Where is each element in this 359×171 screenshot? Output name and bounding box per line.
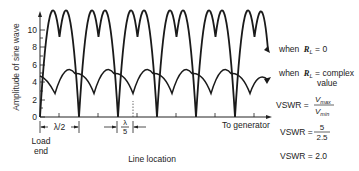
vswr-formula: VSWR = Vmax Vmin: [276, 95, 334, 117]
svg-text:VSWR =: VSWR =: [276, 100, 309, 110]
svg-text:2: 2: [32, 95, 37, 105]
y-axis-arrow-icon: [38, 11, 42, 17]
svg-text:10: 10: [28, 25, 38, 35]
series-rl-zero: [40, 10, 268, 117]
y-axis-label: Amplitude of sine wave: [11, 23, 21, 110]
dim-arrow-left-icon: [40, 126, 45, 129]
svg-text:2.5: 2.5: [316, 133, 328, 142]
to-generator-label: To generator: [222, 120, 270, 130]
svg-text:8: 8: [32, 42, 37, 52]
end-label: end: [34, 146, 48, 156]
y-tick-labels: 0 2 4 6 8 10: [28, 25, 38, 122]
svg-text:VSWR =: VSWR =: [280, 127, 313, 137]
x-axis-arrow-icon: [266, 115, 272, 119]
half-wavelength-label: λ/2: [54, 122, 66, 132]
five-label: 5: [123, 127, 127, 136]
svg-text:5: 5: [320, 123, 325, 132]
standing-wave-chart: 0 2 4 6 8 10 λ/2 λ 5 To generator: [0, 0, 359, 171]
svg-text:Vmax: Vmax: [315, 95, 331, 105]
svg-text:0: 0: [32, 112, 37, 122]
svg-text:value: value: [317, 78, 338, 88]
legend-rl-zero: when RL = 0: [278, 44, 327, 55]
rl-zero-arrow-icon: [264, 46, 270, 53]
load-label: Load: [32, 136, 51, 146]
svg-text:6: 6: [32, 60, 37, 70]
dim-arrow-right-icon: [74, 126, 79, 129]
legend-rl-complex: when RL = complex value: [278, 68, 355, 88]
x-axis-label: Line location: [128, 154, 176, 164]
svg-text:4: 4: [32, 77, 37, 87]
vswr-result: VSWR = 2.0: [280, 151, 327, 161]
svg-text:when RL = 0: when RL = 0: [278, 44, 327, 55]
dim-arrow-in-left-icon: [112, 126, 117, 129]
dim-arrow-in-right-icon: [133, 126, 138, 129]
lambda-label: λ: [123, 118, 127, 127]
svg-text:Vmin: Vmin: [315, 107, 329, 117]
vswr-substitution: VSWR = 5 2.5: [280, 123, 330, 142]
